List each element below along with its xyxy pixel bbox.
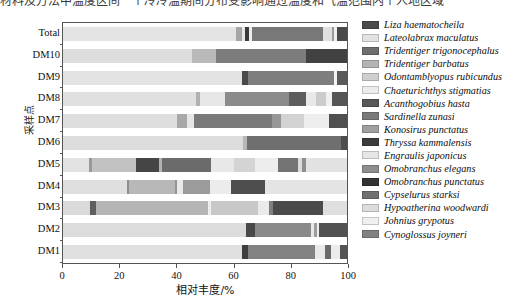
legend-swatch [362, 138, 379, 146]
legend-label: Omobranchus punctatus [384, 176, 484, 187]
bar-segment [306, 49, 347, 63]
legend-item: Thryssa kammalensis [362, 136, 514, 149]
legend-label: Tridentiger barbatus [384, 58, 469, 69]
bar-segment [200, 92, 226, 106]
bar-segment [306, 158, 347, 172]
bar-segment [258, 201, 269, 215]
bar-segment [136, 158, 159, 172]
legend-item: Acanthogobius hasta [362, 97, 514, 110]
stacked-bar-dm1 [63, 245, 347, 259]
bar-segment [337, 71, 347, 85]
bar-segment [129, 180, 174, 194]
bar-segment [194, 114, 272, 128]
legend-label: Chaeturichthys stigmatias [384, 85, 491, 96]
bar-segment [289, 92, 306, 106]
cropped-body-text-line: 材料及方法中温度区间一个冷冷温期间分布受影响通过温度和气温范围内个人地区域 [0, 0, 515, 7]
legend-item: Chaeturichthys stigmatias [362, 83, 514, 96]
legend-label: Lateolabrax maculatus [384, 32, 478, 43]
legend: Liza haematocheilaLateolabrax maculatusT… [362, 18, 514, 241]
legend-label: Liza haematocheila [384, 19, 464, 30]
bar-segment [255, 158, 278, 172]
legend-label: Cynoglossus joyneri [384, 229, 467, 240]
legend-swatch [362, 165, 379, 173]
legend-label: Acanthogobius hasta [384, 98, 470, 109]
bar-segment [192, 49, 216, 63]
bar-segment [177, 114, 187, 128]
legend-swatch [362, 178, 379, 186]
legend-item: Hypoatherina woodwardi [362, 201, 514, 214]
y-tick-label-dm10: DM10 [16, 50, 60, 60]
stacked-bar-dm4 [63, 180, 347, 194]
legend-item: Liza haematocheila [362, 18, 514, 31]
bar-segment [162, 158, 212, 172]
legend-label: Engraulis japonicus [384, 150, 466, 161]
x-tick-mark [62, 264, 63, 268]
bar-segment [315, 245, 325, 259]
y-tick-label-dm3: DM3 [16, 202, 60, 212]
stacked-bar-dm5 [63, 158, 347, 172]
legend-swatch [362, 34, 379, 42]
x-tick-label-80: 80 [286, 270, 297, 281]
bar-segment [281, 114, 304, 128]
legend-swatch [362, 151, 379, 159]
legend-item: Konosirus punctatus [362, 123, 514, 136]
bar-segment [252, 27, 323, 41]
bar-segment [323, 27, 332, 41]
bar-segment [231, 180, 265, 194]
x-tick-label-0: 0 [59, 270, 64, 281]
legend-label: Sardinella zunasi [384, 111, 455, 122]
x-tick-label-60: 60 [228, 270, 239, 281]
bar-segment [63, 71, 242, 85]
legend-swatch [362, 112, 379, 120]
legend-swatch [362, 86, 379, 94]
stacked-bar-dm8 [63, 92, 347, 106]
bar-segment [63, 92, 196, 106]
legend-swatch [362, 204, 379, 212]
legend-item: Cypselurus starksi [362, 188, 514, 201]
legend-item: Cynoglossus joyneri [362, 228, 514, 241]
legend-item: Tridentiger barbatus [362, 57, 514, 70]
legend-label: Odontamblyopus rubicundus [384, 71, 502, 82]
legend-item: Sardinella zunasi [362, 110, 514, 123]
legend-swatch [362, 99, 379, 107]
legend-swatch [362, 191, 379, 199]
x-tick-mark [291, 264, 292, 268]
y-tick-label-dm8: DM8 [16, 93, 60, 103]
legend-swatch [362, 47, 379, 55]
bar-segment [323, 201, 347, 215]
x-tick-mark [234, 264, 235, 268]
x-axis-ticks: 020406080100 [62, 264, 349, 278]
stacked-bar-total [63, 27, 347, 41]
legend-item: Odontamblyopus rubicundus [362, 70, 514, 83]
stacked-bar-dm7 [63, 114, 347, 128]
y-tick-label-dm4: DM4 [16, 181, 60, 191]
legend-item: Lateolabrax maculatus [362, 31, 514, 44]
bar-segment [225, 92, 289, 106]
bar-segment [304, 114, 330, 128]
x-tick-label-20: 20 [114, 270, 125, 281]
stacked-bar-dm9 [63, 71, 347, 85]
bar-segment [331, 245, 340, 259]
figure-container: 材料及方法中温度区间一个冷冷温期间分布受影响通过温度和气温范围内个人地区域 采样… [0, 0, 515, 306]
bar-segment [341, 136, 347, 150]
stacked-bar-dm6 [63, 136, 347, 150]
bar-segment [183, 180, 210, 194]
bar-segment [278, 158, 298, 172]
bar-segment [63, 201, 90, 215]
x-tick-label-100: 100 [340, 270, 356, 281]
bar-segment [248, 71, 333, 85]
stacked-bar-dm3 [63, 201, 347, 215]
y-axis-tick-labels: TotalDM10DM9DM8DM7DM6DM5DM4DM3DM2DM1 [12, 22, 60, 264]
legend-swatch [362, 217, 379, 225]
x-tick-mark [119, 264, 120, 268]
legend-label: Tridentiger trigonocephalus [384, 45, 499, 56]
legend-item: Engraulis japonicus [362, 149, 514, 162]
bar-segment [63, 136, 243, 150]
bar-segment [63, 114, 177, 128]
legend-swatch [362, 125, 379, 133]
bar-segment [319, 223, 347, 237]
bar-segment [265, 180, 347, 194]
legend-item: Tridentiger trigonocephalus [362, 44, 514, 57]
x-tick-label-40: 40 [171, 270, 182, 281]
bar-segment [273, 201, 323, 215]
